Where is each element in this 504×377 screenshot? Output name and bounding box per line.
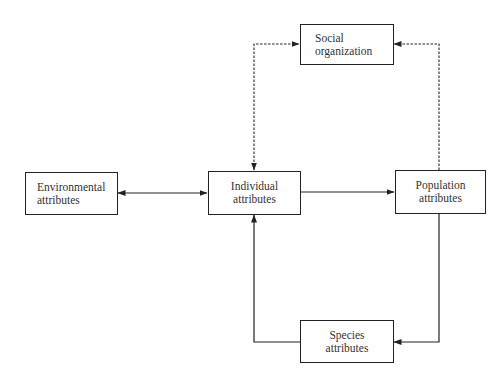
node-label-line1: Individual xyxy=(231,180,278,193)
diagram-canvas: Social organization Environmental attrib… xyxy=(0,0,504,377)
edge-species-individual xyxy=(254,215,300,342)
node-label-line2: attributes xyxy=(233,193,276,206)
node-label-line1: Population xyxy=(416,179,466,192)
node-label-line1: Environmental xyxy=(37,181,105,194)
node-label-line2: attributes xyxy=(419,192,462,205)
node-population-attributes: Population attributes xyxy=(395,170,486,214)
node-label-line1: Species xyxy=(329,329,364,342)
node-environmental-attributes: Environmental attributes xyxy=(25,172,118,215)
edge-population-social xyxy=(394,44,439,170)
node-label-line2: attributes xyxy=(326,342,369,355)
node-label-line2: organization xyxy=(315,45,372,58)
node-individual-attributes: Individual attributes xyxy=(208,171,301,215)
edge-population-species xyxy=(394,213,439,342)
node-label-line1: Social xyxy=(315,32,344,45)
node-label-line2: attributes xyxy=(37,194,80,207)
node-social-organization: Social organization xyxy=(300,24,394,65)
edge-individual-social xyxy=(254,44,299,170)
node-species-attributes: Species attributes xyxy=(300,320,394,363)
